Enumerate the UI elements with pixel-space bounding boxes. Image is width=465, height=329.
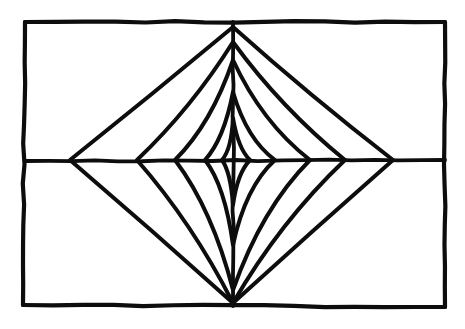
frame-edge-0 [25, 21, 445, 23]
frame-edge-3 [23, 22, 25, 305]
frame-edge-1 [444, 22, 445, 307]
drawing-canvas [0, 0, 465, 329]
figure-root [0, 0, 465, 329]
